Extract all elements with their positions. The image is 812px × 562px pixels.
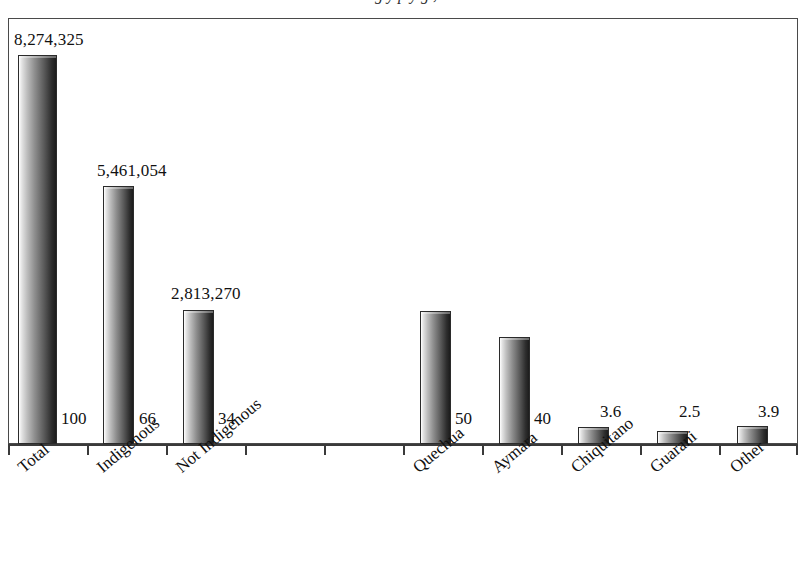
axis-tick-3 xyxy=(245,444,247,455)
axis-tick-1 xyxy=(87,444,89,455)
percent-label-aymara: 40 xyxy=(534,409,551,429)
bar-total[interactable] xyxy=(18,55,57,444)
axis-tick-6 xyxy=(482,444,484,455)
axis-tick-10 xyxy=(796,444,798,455)
axis-tick-8 xyxy=(640,444,642,455)
chart-title-cropped: g y p y g , xyxy=(0,0,812,8)
bar-indigenous[interactable] xyxy=(103,186,134,444)
bar-chart: g y p y g , 8,274,325 5,461,054 2,813,27… xyxy=(0,0,812,562)
axis-tick-5 xyxy=(403,444,405,455)
percent-label-other: 3.9 xyxy=(758,402,779,422)
percent-label-total: 100 xyxy=(61,409,87,429)
axis-tick-4 xyxy=(324,444,326,455)
axis-tick-0 xyxy=(8,444,10,455)
value-label-indigenous: 5,461,054 xyxy=(97,161,167,181)
percent-label-guarani: 2.5 xyxy=(679,402,700,422)
bar-not-indigenous[interactable] xyxy=(183,310,214,444)
axis-tick-2 xyxy=(166,444,168,455)
bar-aymara[interactable] xyxy=(499,337,530,444)
axis-tick-9 xyxy=(719,444,721,455)
bar-quechua[interactable] xyxy=(420,311,451,444)
value-label-total: 8,274,325 xyxy=(14,30,84,50)
value-label-not-indigenous: 2,813,270 xyxy=(171,284,241,304)
axis-tick-7 xyxy=(561,444,563,455)
